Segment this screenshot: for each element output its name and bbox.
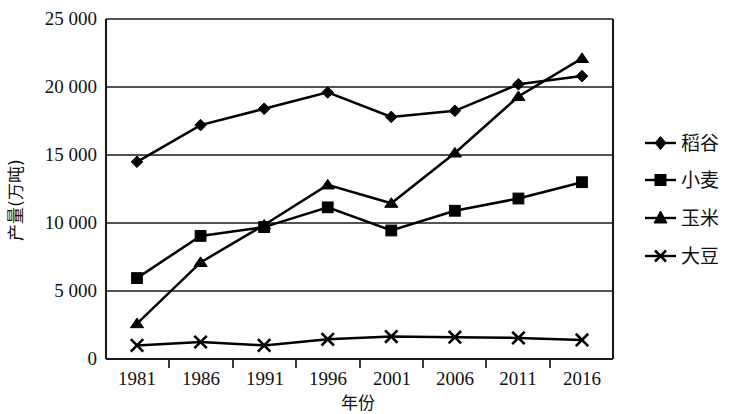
x-tick-label: 1981 (118, 368, 156, 389)
triangle-marker (321, 179, 334, 189)
x-tick-label: 2016 (563, 368, 601, 389)
legend-label: 小麦 (681, 169, 719, 191)
x-tick-label: 2006 (436, 368, 474, 389)
y-tick-label: 20 000 (45, 76, 97, 97)
square-marker (577, 177, 588, 188)
legend-item-yumi[interactable]: 玉米 (645, 207, 719, 229)
square-marker (195, 231, 206, 242)
plot-frame (106, 19, 613, 359)
diamond-marker (322, 87, 334, 99)
diamond-marker (258, 103, 270, 115)
series-triangle (130, 53, 588, 328)
y-tick-label: 0 (88, 348, 98, 369)
y-axis-tick-labels: 25 000 20 000 15 000 10 000 5 000 0 (45, 8, 97, 369)
gridlines (106, 19, 613, 291)
y-tick-label: 10 000 (45, 212, 97, 233)
legend-label: 稻谷 (681, 132, 719, 154)
square-marker (449, 205, 460, 216)
diamond-marker (195, 119, 207, 131)
square-marker (513, 193, 524, 204)
x-tick-label: 1996 (309, 368, 347, 389)
line-chart: 25 000 20 000 15 000 10 000 5 000 0 (0, 0, 731, 414)
y-tick-label: 25 000 (45, 8, 97, 29)
legend-label: 玉米 (681, 207, 719, 229)
x-axis-title: 年份 (341, 393, 375, 413)
diamond-icon (655, 137, 666, 150)
legend-item-dadou[interactable]: 大豆 (645, 245, 719, 267)
legend-item-xiaomai[interactable]: 小麦 (645, 169, 719, 191)
y-tick-label: 15 000 (45, 144, 97, 165)
square-marker (322, 202, 333, 213)
chart-figure: 25 000 20 000 15 000 10 000 5 000 0 (0, 0, 731, 414)
series-line (137, 76, 582, 162)
x-axis-tick-marks (169, 359, 550, 368)
y-tick-label: 5 000 (54, 280, 97, 301)
square-marker (132, 273, 143, 284)
square-icon (655, 175, 666, 186)
legend-item-daogu[interactable]: 稻谷 (645, 132, 719, 154)
x-axis-category-labels: 1981 1986 1991 1996 2001 2006 2011 2016 (118, 368, 601, 389)
diamond-marker (576, 70, 588, 82)
y-axis-title: 产量(万吨) (6, 159, 26, 240)
x-tick-label: 2001 (373, 368, 411, 389)
series-diamond (131, 70, 588, 167)
series-cross (131, 330, 588, 351)
diamond-marker (385, 111, 397, 123)
square-marker (386, 225, 397, 236)
chart-legend: 稻谷 小麦 玉米 大豆 (645, 132, 719, 267)
x-tick-label: 1986 (182, 368, 220, 389)
data-series-layer (130, 53, 588, 352)
x-tick-label: 2011 (499, 368, 536, 389)
legend-label: 大豆 (681, 245, 719, 267)
diamond-marker (513, 78, 525, 90)
triangle-marker (575, 53, 588, 63)
diamond-marker (449, 105, 461, 117)
diamond-marker (131, 156, 143, 168)
x-tick-label: 1991 (246, 368, 284, 389)
